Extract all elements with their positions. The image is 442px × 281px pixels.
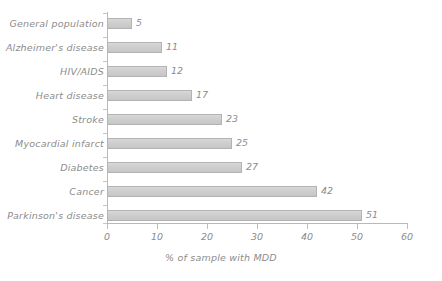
- x-axis-tick: [207, 224, 208, 229]
- x-axis-tick-label: 10: [142, 231, 172, 243]
- category-label: General population: [9, 18, 104, 29]
- x-axis-tick-label: 40: [292, 231, 322, 243]
- bar-chart: General population Alzheimer's disease H…: [0, 0, 442, 281]
- plot-area: 5 11 12 17 23 25 27 42 51: [107, 12, 407, 223]
- x-axis-tick-label: 50: [342, 231, 372, 243]
- bar: [107, 114, 222, 125]
- x-axis-tick: [407, 224, 408, 229]
- x-axis-tick-label: 20: [192, 231, 222, 243]
- x-axis-title: % of sample with MDD: [0, 252, 442, 263]
- bar-value-label: 27: [246, 161, 258, 172]
- x-axis-tick-label: 0: [92, 231, 122, 243]
- bar: [107, 138, 232, 149]
- x-axis-tick: [357, 224, 358, 229]
- category-label: Myocardial infarct: [15, 138, 104, 149]
- bar: [107, 162, 242, 173]
- category-label: Stroke: [72, 114, 104, 125]
- bar: [107, 42, 162, 53]
- category-label: Parkinson's disease: [7, 210, 104, 221]
- category-label: HIV/AIDS: [60, 66, 104, 77]
- bar: [107, 18, 132, 29]
- x-axis-tick: [307, 224, 308, 229]
- x-axis-tick: [257, 224, 258, 229]
- bar-value-label: 42: [321, 185, 333, 196]
- bar-value-label: 51: [366, 209, 378, 220]
- bar-value-label: 11: [166, 41, 178, 52]
- bar: [107, 90, 192, 101]
- x-axis-tick: [107, 224, 108, 229]
- x-axis-tick: [157, 224, 158, 229]
- x-axis-tick-label: 30: [242, 231, 272, 243]
- bar: [107, 210, 362, 221]
- bar-value-label: 17: [196, 89, 208, 100]
- x-axis-tick-label: 60: [392, 231, 422, 243]
- bar-value-label: 25: [236, 137, 248, 148]
- category-label: Diabetes: [60, 162, 104, 173]
- category-label: Alzheimer's disease: [6, 42, 104, 53]
- bar-value-label: 5: [136, 17, 142, 28]
- category-label: Heart disease: [36, 90, 104, 101]
- bar: [107, 186, 317, 197]
- bar-value-label: 23: [226, 113, 238, 124]
- bar: [107, 66, 167, 77]
- category-label: Cancer: [69, 186, 104, 197]
- bar-value-label: 12: [171, 65, 183, 76]
